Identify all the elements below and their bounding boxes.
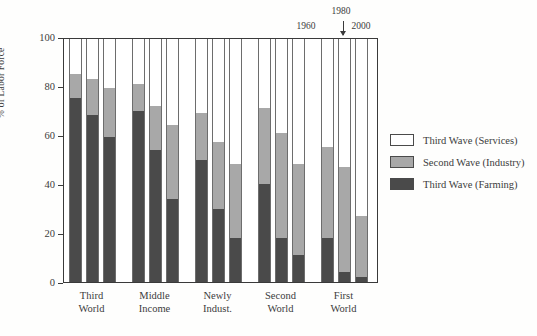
legend-item-services: Third Wave (Services)	[390, 133, 525, 147]
segment-farming	[70, 98, 81, 282]
segment-industry	[276, 133, 287, 238]
year-label-2000: 2000	[352, 21, 371, 31]
segment-farming	[213, 209, 224, 283]
bar-third-world-1960[interactable]	[69, 39, 82, 282]
bar-newly-indust-1960[interactable]	[195, 39, 208, 282]
legend-label-services: Third Wave (Services)	[423, 135, 518, 146]
legend-item-industry: Second Wave (Industry)	[390, 155, 525, 169]
segment-farming	[259, 184, 270, 282]
y-axis-title: % of Labor Force	[0, 0, 6, 118]
segment-farming	[87, 115, 98, 282]
segment-farming	[196, 160, 207, 283]
bar-newly-indust-1980[interactable]	[212, 39, 225, 282]
chart-root: % of Labor Force 100806040200 1980 1960 …	[0, 0, 537, 336]
bar-second-world-1980[interactable]	[275, 39, 288, 282]
segment-industry	[196, 113, 207, 160]
legend-swatch-services	[390, 134, 414, 146]
segment-farming	[133, 111, 144, 283]
year-label-1980: 1980	[332, 6, 351, 16]
y-tick-label-60: 60	[25, 131, 55, 142]
segment-farming	[230, 238, 241, 282]
segment-farming	[322, 238, 333, 282]
y-tick-label-100: 100	[25, 33, 55, 44]
segment-industry	[293, 164, 304, 255]
legend-item-farming: Third Wave (Farming)	[390, 177, 525, 191]
x-group-label-line2: World	[299, 303, 389, 316]
legend: Third Wave (Services) Second Wave (Indus…	[390, 133, 525, 199]
y-tick-label-80: 80	[25, 82, 55, 93]
segment-industry	[259, 108, 270, 184]
segment-industry	[133, 84, 144, 111]
segment-industry	[150, 106, 161, 150]
bar-newly-indust-2000[interactable]	[229, 39, 242, 282]
segment-farming	[276, 238, 287, 282]
year-label-1960: 1960	[297, 21, 316, 31]
segment-farming	[293, 255, 304, 282]
segment-industry	[339, 167, 350, 272]
segment-industry	[322, 147, 333, 238]
segment-industry	[230, 164, 241, 238]
bar-first-world-2000[interactable]	[355, 39, 368, 282]
bar-middle-income-1960[interactable]	[132, 39, 145, 282]
x-group-label-first: FirstWorld	[299, 290, 389, 315]
segment-industry	[167, 125, 178, 199]
bar-second-world-1960[interactable]	[258, 39, 271, 282]
segment-industry	[70, 74, 81, 99]
segment-farming	[150, 150, 161, 282]
legend-label-farming: Third Wave (Farming)	[423, 179, 518, 190]
y-tick-label-0: 0	[25, 278, 55, 289]
bar-third-world-2000[interactable]	[103, 39, 116, 282]
bar-first-world-1980[interactable]	[338, 39, 351, 282]
y-tick-label-40: 40	[25, 180, 55, 191]
legend-swatch-farming	[390, 178, 414, 190]
legend-label-industry: Second Wave (Industry)	[423, 157, 525, 168]
year-pointer-arrow-icon	[343, 21, 344, 35]
bar-second-world-2000[interactable]	[292, 39, 305, 282]
segment-industry	[213, 142, 224, 208]
legend-swatch-industry	[390, 156, 414, 168]
bar-middle-income-2000[interactable]	[166, 39, 179, 282]
segment-farming	[104, 137, 115, 282]
bar-first-world-1960[interactable]	[321, 39, 334, 282]
segment-farming	[339, 272, 350, 282]
y-tick-label-20: 20	[25, 229, 55, 240]
bars-layer	[64, 39, 377, 282]
segment-industry	[87, 79, 98, 116]
bar-middle-income-1980[interactable]	[149, 39, 162, 282]
plot-area	[63, 38, 378, 283]
bar-third-world-1980[interactable]	[86, 39, 99, 282]
segment-farming	[356, 277, 367, 282]
segment-industry	[104, 88, 115, 137]
segment-farming	[167, 199, 178, 282]
segment-industry	[356, 216, 367, 277]
x-group-label-line1: First	[299, 290, 389, 303]
